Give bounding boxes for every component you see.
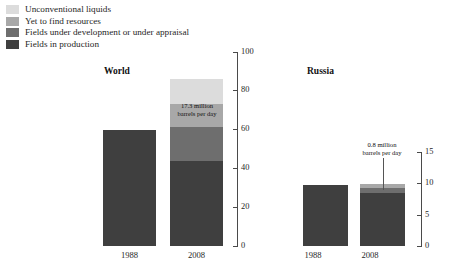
y-axis-line-world <box>237 52 238 247</box>
y-axis-tick-label: 5 <box>425 210 429 219</box>
bar-russia-2008 <box>360 184 405 246</box>
x-axis-label-2008: 2008 <box>340 250 400 260</box>
panel-world: World 17.3 million barrels per day 1988 … <box>0 0 250 271</box>
y-axis-tick-label: 0 <box>241 241 245 250</box>
plot-area-world <box>95 52 235 246</box>
bar-segment-fields-in-production <box>170 161 223 246</box>
bar-world-1988 <box>103 130 156 246</box>
plot-area-russia <box>297 152 417 246</box>
y-axis-tick <box>233 168 237 169</box>
y-axis-tick-label: 40 <box>241 163 249 172</box>
y-axis-line-russia <box>421 152 422 247</box>
y-axis-tick <box>233 52 237 53</box>
y-axis-tick-label: 60 <box>241 124 249 133</box>
y-axis-tick <box>417 183 421 184</box>
annotation-leader-line <box>383 158 384 190</box>
y-axis-tick <box>417 215 421 216</box>
y-axis-tick-label: 20 <box>241 202 249 211</box>
y-axis-tick <box>233 207 237 208</box>
bar-segment-fields-in-production <box>303 185 348 246</box>
y-axis-tick-label: 100 <box>241 47 254 56</box>
y-axis-tick <box>417 246 421 247</box>
y-axis-tick-label: 15 <box>425 147 433 156</box>
y-axis-tick-label: 80 <box>241 85 249 94</box>
bar-segment-fields-in-production <box>360 193 405 246</box>
annotation-world: 17.3 million barrels per day <box>166 102 228 117</box>
bar-segment-fields-in-production <box>103 130 156 246</box>
bar-segment-fields-under-development <box>170 127 223 161</box>
y-axis-tick <box>233 246 237 247</box>
x-axis-label-1988: 1988 <box>283 250 343 260</box>
annotation-russia: 0.8 million barrels per day <box>348 141 416 156</box>
y-axis-tick <box>233 129 237 130</box>
panel-title-russia: Russia <box>307 66 334 76</box>
panel-russia: Russia 0.8 million barrels per day 1988 … <box>285 0 458 271</box>
x-axis-label-2008: 2008 <box>170 250 223 260</box>
y-axis-tick-label: 0 <box>425 241 429 250</box>
y-axis-tick <box>417 152 421 153</box>
bar-russia-1988 <box>303 185 348 246</box>
x-axis-label-1988: 1988 <box>103 250 156 260</box>
y-axis-tick-label: 10 <box>425 178 433 187</box>
bar-segment-unconventional-liquids <box>170 79 223 104</box>
y-axis-tick <box>233 90 237 91</box>
